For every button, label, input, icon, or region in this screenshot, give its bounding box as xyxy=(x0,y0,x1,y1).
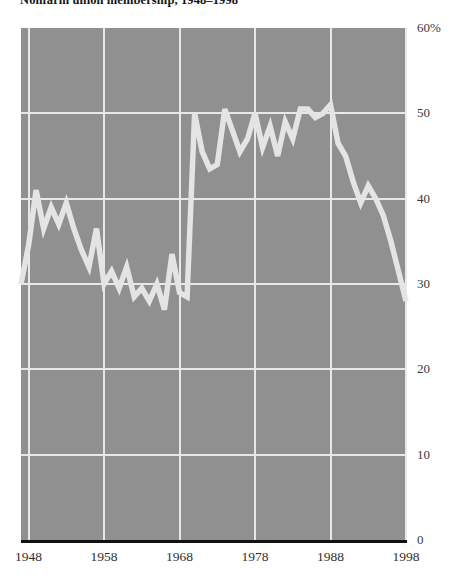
y-tick-label-10: 10 xyxy=(417,448,430,461)
plot-area xyxy=(21,28,406,540)
y-tick-label-30: 30 xyxy=(417,277,430,290)
x-axis-baseline xyxy=(21,540,407,543)
chart-title: Nonfarm union membership, 1948–1998 xyxy=(20,0,440,7)
y-tick-label-0: 0 xyxy=(417,533,424,546)
union-membership-line-chart: Nonfarm union membership, 1948–1998 60%5… xyxy=(0,0,456,582)
data-line-chart-svg xyxy=(21,28,406,540)
y-tick-label-60: 60% xyxy=(417,21,441,34)
x-tick-label-1968: 1968 xyxy=(166,549,193,564)
x-tick-label-1998: 1998 xyxy=(393,549,420,564)
x-tick-label-1988: 1988 xyxy=(317,549,344,564)
data-line-series xyxy=(21,105,406,310)
x-tick-label-1958: 1958 xyxy=(91,549,118,564)
y-tick-label-20: 20 xyxy=(417,362,430,375)
y-tick-label-50: 50 xyxy=(417,106,430,119)
x-tick-label-1948: 1948 xyxy=(15,549,42,564)
x-tick-label-1978: 1978 xyxy=(242,549,269,564)
y-tick-label-40: 40 xyxy=(417,192,430,205)
